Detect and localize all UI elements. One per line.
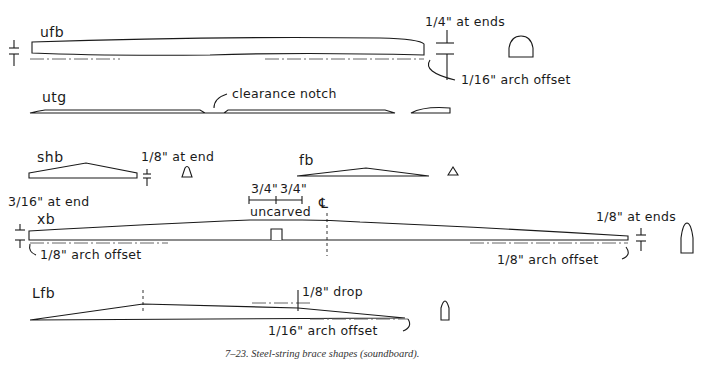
brace-body-xb — [29, 220, 628, 240]
dim-b-label: 3/4" — [280, 181, 307, 196]
profile-fb — [448, 167, 458, 175]
brace-body-shb — [29, 163, 137, 178]
lfb-arch-label: 1/16" arch offset — [268, 323, 378, 338]
height-marker-xb-right — [636, 228, 646, 251]
profile-lfb — [441, 301, 449, 320]
brace-label-ufb: ufb — [40, 24, 64, 40]
brace-lfb: Lfb 1/8" drop 1/16" arch offset — [30, 284, 449, 338]
utg-notch-label: clearance notch — [232, 86, 337, 101]
shb-end-height-label: 1/8" at end — [141, 149, 214, 164]
profile-utg — [411, 108, 450, 113]
uncarved-label: uncarved — [250, 204, 311, 219]
brace-label-xb: xb — [37, 211, 55, 227]
brace-label-fb: fb — [299, 152, 314, 168]
brace-ufb: ufb 1/4" at ends 1/16" arch offset — [9, 14, 571, 87]
centerline-symbol: ℄ — [318, 195, 329, 211]
clearance-notch-xb — [271, 229, 282, 240]
brace-body-fb — [297, 168, 429, 176]
ufb-end-height-label: 1/4" at ends — [425, 14, 505, 29]
profile-xb — [681, 223, 693, 253]
brace-utg: utg clearance notch — [30, 86, 450, 113]
brace-shb: shb 1/8" at end — [29, 149, 214, 186]
xb-left-end-label: 3/16" at end — [8, 194, 89, 209]
height-marker-shb — [143, 169, 151, 186]
xb-right-arch-label: 1/8" arch offset — [497, 252, 599, 267]
xb-right-end-label: 1/8" at ends — [596, 209, 676, 224]
brace-fb: fb — [297, 152, 458, 176]
dimension-uncarved: 3/4" 3/4" uncarved — [249, 181, 311, 219]
brace-shapes-diagram: ufb 1/4" at ends 1/16" arch offset utg c… — [0, 0, 704, 365]
dimension-ufb-ends: 1/4" at ends — [425, 14, 505, 80]
figure-caption: 7–23. Steel-string brace shapes (soundbo… — [225, 348, 419, 360]
brace-label-utg: utg — [42, 89, 67, 105]
dim-a-label: 3/4" — [251, 181, 278, 196]
profile-shb — [182, 167, 192, 178]
ufb-arch-label: 1/16" arch offset — [461, 72, 571, 87]
brace-label-shb: shb — [37, 149, 64, 165]
xb-left-arch-label: 1/8" arch offset — [40, 247, 142, 262]
brace-body-ufb — [32, 38, 424, 56]
height-marker-xb-left — [15, 224, 25, 248]
brace-xb: 3/16" at end xb 3/4" 3/4" uncarved ℄ 1/8… — [8, 181, 693, 267]
brace-body-utg — [30, 110, 395, 113]
brace-body-lfb — [30, 304, 405, 320]
brace-label-lfb: Lfb — [32, 285, 55, 301]
profile-ufb — [509, 36, 533, 57]
height-marker-left — [9, 40, 19, 66]
lfb-drop-label: 1/8" drop — [302, 284, 363, 299]
